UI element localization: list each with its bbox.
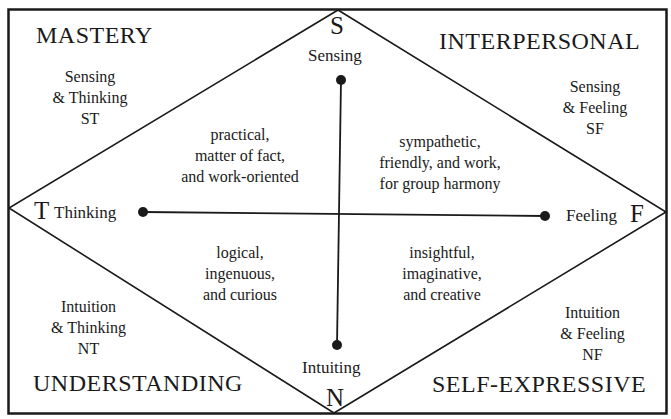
desc-self-expressive: insightful, imaginative, and creative [392,242,492,305]
combo-st-code: ST [50,108,130,129]
desc-mastery: practical, matter of fact, and work-orie… [170,124,310,187]
axis-letter-n: N [326,384,344,413]
combo-st-line2: & Thinking [50,87,130,108]
desc-self-expressive-3: and creative [392,284,492,305]
dot-sensing [336,75,346,85]
axis-letter-s: S [330,12,344,41]
combo-nt-line1: Intuition [46,296,131,317]
quadrant-title-self-expressive: SELF-EXPRESSIVE [432,371,646,399]
combo-nt-code: NT [46,338,131,359]
desc-self-expressive-2: imaginative, [392,263,492,284]
dot-intuiting [332,340,342,350]
dot-thinking [138,207,148,217]
combo-st: Sensing & Thinking ST [50,66,130,129]
axis-label-intuiting: Intuiting [302,358,361,378]
combo-nf: Intuition & Feeling NF [550,302,635,365]
quadrant-title-understanding: UNDERSTANDING [33,370,243,398]
axis-label-sensing: Sensing [308,46,362,66]
axis-label-thinking: Thinking [54,203,116,223]
axis-letter-t: T [34,197,49,226]
combo-sf: Sensing & Feeling SF [555,76,635,139]
combo-sf-code: SF [555,118,635,139]
dot-feeling [540,211,550,221]
axis-label-feeling: Feeling [566,206,617,226]
combo-nf-line2: & Feeling [550,323,635,344]
combo-st-line1: Sensing [50,66,130,87]
combo-sf-line1: Sensing [555,76,635,97]
axis-letter-f: F [630,200,644,229]
combo-nt-line2: & Thinking [46,317,131,338]
combo-nt: Intuition & Thinking NT [46,296,131,359]
combo-nf-code: NF [550,344,635,365]
vertical-axis [337,80,341,345]
desc-self-expressive-1: insightful, [392,242,492,263]
desc-understanding-3: and curious [190,284,290,305]
desc-interpersonal: sympathetic, friendly, and work, for gro… [365,131,515,194]
quadrant-title-interpersonal: INTERPERSONAL [439,28,640,56]
desc-interpersonal-1: sympathetic, [365,131,515,152]
quadrant-title-mastery: MASTERY [36,22,153,50]
desc-interpersonal-3: for group harmony [365,173,515,194]
desc-mastery-1: practical, [170,124,310,145]
desc-understanding-2: ingenuous, [190,263,290,284]
desc-understanding-1: logical, [190,242,290,263]
desc-interpersonal-2: friendly, and work, [365,152,515,173]
desc-mastery-3: and work-oriented [170,166,310,187]
combo-nf-line1: Intuition [550,302,635,323]
combo-sf-line2: & Feeling [555,97,635,118]
desc-mastery-2: matter of fact, [170,145,310,166]
horizontal-axis [143,212,545,216]
desc-understanding: logical, ingenuous, and curious [190,242,290,305]
